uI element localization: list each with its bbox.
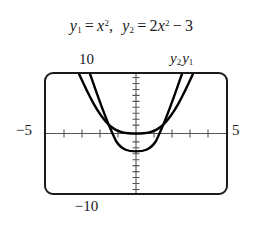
title-eq2-operator: −	[170, 17, 185, 34]
figure-title: y1=x2,y2=2x2−3	[0, 17, 263, 35]
title-eq2-constant: 3	[185, 17, 193, 34]
title-equals-1: =	[82, 17, 97, 34]
graphing-calculator-figure: y1=x2,y2=2x2−3 10 −10 −5 5 y2y1	[0, 0, 263, 228]
plot-area	[46, 74, 226, 193]
title-y2-var: y	[122, 17, 129, 34]
title-comma: ,	[109, 17, 113, 34]
x-axis-max-label: 5	[232, 122, 240, 139]
curve-label-y2: y2	[170, 50, 181, 66]
curve-labels: y2y1	[170, 50, 193, 67]
calculator-screen	[44, 72, 228, 195]
title-equals-2: =	[134, 17, 149, 34]
plot-svg	[46, 74, 226, 193]
curve-label-y1: y1	[182, 50, 193, 66]
title-eq2-base: x	[158, 17, 165, 34]
x-axis-min-label: −5	[16, 122, 32, 139]
y-axis-min-label: −10	[0, 198, 218, 215]
title-eq2-coefficient: 2	[150, 17, 158, 34]
